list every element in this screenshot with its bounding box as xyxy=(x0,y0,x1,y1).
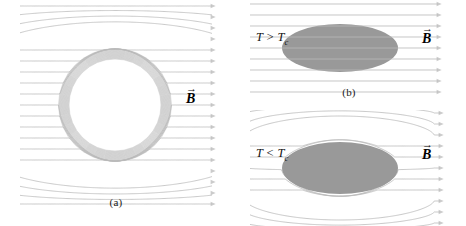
magnetic-field-vector-label-c: → B xyxy=(422,142,432,162)
panel-a-diagram xyxy=(0,0,232,226)
temperature-condition-b-subscript: c xyxy=(284,37,288,47)
field-symbol-c: B xyxy=(422,148,432,162)
temperature-condition-b-text: T > T xyxy=(256,30,284,44)
temperature-condition-c: T < Tc xyxy=(256,146,288,163)
field-symbol-b: B xyxy=(422,32,432,46)
panel-c-diagram xyxy=(232,110,466,226)
panel-b: T > Tc → B (b) xyxy=(232,0,466,113)
magnetic-field-vector-label-a: → B xyxy=(186,86,196,106)
figure-root: → B (a) T > Tc → B (b) T < Tc → B (c) xyxy=(0,0,466,226)
panel-b-caption: (b) xyxy=(232,86,466,98)
temperature-condition-b: T > Tc xyxy=(256,30,288,47)
panel-a-caption: (a) xyxy=(0,196,232,208)
field-symbol-a: B xyxy=(186,92,196,106)
panel-c: T < Tc → B (c) xyxy=(232,110,466,226)
panel-a: → B (a) xyxy=(0,0,232,226)
temperature-condition-c-subscript: c xyxy=(284,153,288,163)
temperature-condition-c-text: T < T xyxy=(256,146,284,160)
magnetic-field-vector-label-b: → B xyxy=(422,26,432,46)
